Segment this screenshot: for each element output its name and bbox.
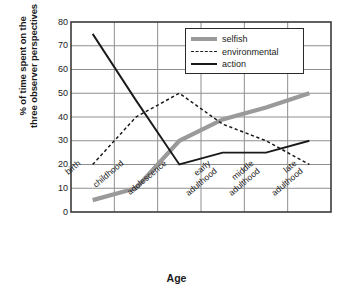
line-chart-figure: % of time spent on the three observer pe… — [0, 0, 353, 299]
x-tick-label-line: adolescence — [125, 158, 168, 197]
x-tick-label: childhood — [50, 158, 125, 224]
x-tick-label: birth — [7, 158, 82, 224]
x-axis-tick-labels: birthchildhoodadolescenceearlyadulthoodm… — [0, 0, 353, 299]
x-tick-label-line: childhood — [91, 158, 126, 189]
x-axis-title: Age — [0, 272, 353, 284]
x-tick-label-line: birth — [63, 158, 82, 176]
